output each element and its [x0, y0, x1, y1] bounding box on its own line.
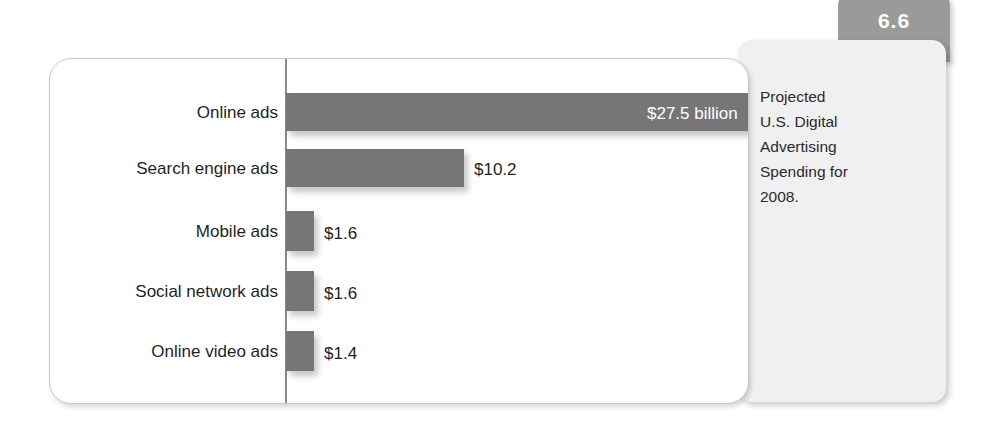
bar-social-network-ads: [286, 271, 314, 311]
bar-value-label: $10.2: [474, 161, 517, 178]
category-label: Mobile ads: [49, 223, 278, 240]
bar-row: Online video ads $1.4: [50, 331, 748, 371]
figure-root: 6.6 Projected U.S. Digital Advertising S…: [0, 0, 997, 424]
chart-card: Online ads $27.5 billion Search engine a…: [49, 58, 749, 404]
figure-number-label: 6.6: [838, 10, 950, 31]
bar-value-label: $27.5 billion: [647, 105, 738, 122]
bar-search-engine-ads: [286, 149, 464, 187]
figure-caption-panel: Projected U.S. Digital Advertising Spend…: [738, 40, 946, 402]
bar-row: Online ads $27.5 billion: [50, 93, 748, 131]
category-label: Online video ads: [49, 343, 278, 360]
bar-value-label: $1.6: [324, 225, 357, 242]
bar-row: Social network ads $1.6: [50, 271, 748, 311]
bar-online-video-ads: [286, 331, 314, 371]
category-label: Online ads: [49, 104, 278, 121]
category-label: Social network ads: [49, 283, 278, 300]
figure-caption-text: Projected U.S. Digital Advertising Spend…: [760, 84, 920, 209]
bar-row: Search engine ads $10.2: [50, 149, 748, 187]
category-label: Search engine ads: [49, 160, 278, 177]
bar-value-label: $1.6: [324, 285, 357, 302]
bar-chart-plot-area: Online ads $27.5 billion Search engine a…: [50, 59, 748, 403]
bar-row: Mobile ads $1.6: [50, 211, 748, 251]
bar-value-label: $1.4: [324, 345, 357, 362]
bar-mobile-ads: [286, 211, 314, 251]
